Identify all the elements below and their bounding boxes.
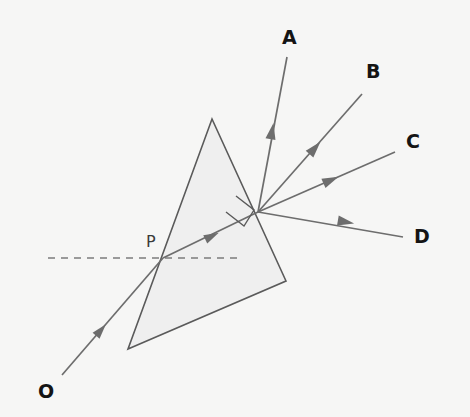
ray-label-c: C bbox=[406, 132, 420, 151]
point-label-p: P bbox=[146, 234, 156, 250]
emergent-ray-D-line bbox=[258, 212, 403, 237]
emergent-ray-D-arrowhead bbox=[337, 216, 354, 226]
ray-label-a: A bbox=[282, 28, 297, 47]
emergent-ray-C-arrowhead bbox=[321, 177, 338, 188]
emergent-ray-D bbox=[258, 212, 403, 237]
point-label-o: O bbox=[38, 382, 54, 401]
emergent-ray-B bbox=[258, 94, 362, 212]
ray-label-d: D bbox=[414, 227, 430, 246]
diagram-canvas bbox=[0, 0, 470, 417]
ray-label-b: B bbox=[366, 62, 380, 81]
optics-ray-diagram: A B C D O P bbox=[0, 0, 470, 417]
emergent-ray-A bbox=[258, 57, 287, 212]
emergent-ray-C bbox=[258, 152, 395, 212]
